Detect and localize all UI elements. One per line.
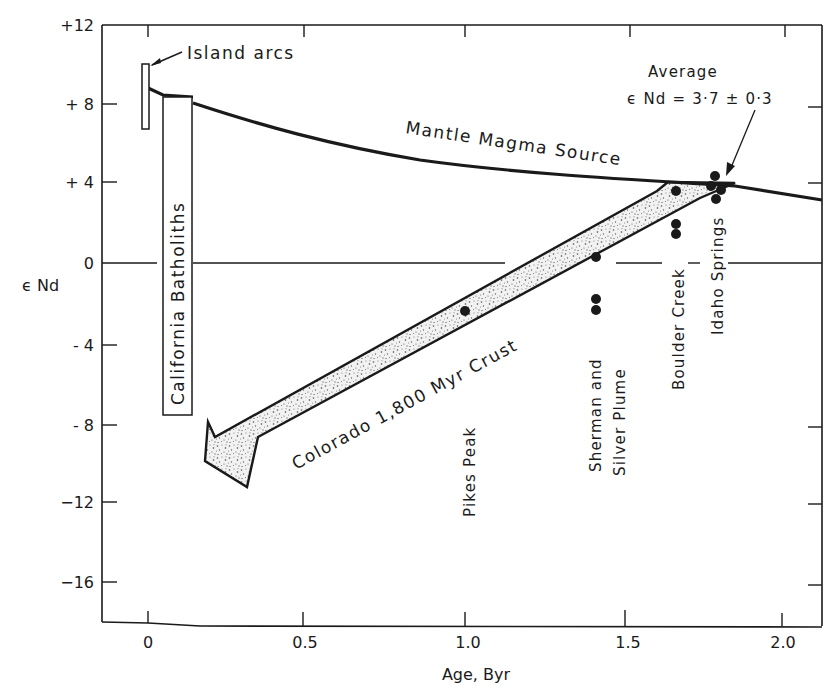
y-tick-label: −12 [60,493,94,512]
x-tick-label: 0 [143,633,153,652]
point-idaho-springs [710,171,720,181]
point-sherman-silver-plume [591,252,601,262]
point-idaho-springs [716,185,726,195]
point-boulder-creek [671,229,681,239]
y-tick-label: - 4 [73,336,94,355]
idaho-springs-label: Idaho Springs [709,217,727,335]
y-axis-title: ϵ Nd [22,276,59,295]
point-idaho-springs [711,194,721,204]
boulder-creek-label: Boulder Creek [670,268,688,390]
y-tick-label: −16 [60,573,94,592]
arrow-head-icon [150,58,161,66]
point-boulder-creek [671,219,681,229]
y-tick-label: - 8 [73,416,94,435]
point-idaho-springs [706,181,716,191]
average-pointer [730,110,755,170]
island-arcs-bar [142,64,149,129]
y-tick-label: + 8 [65,95,94,114]
silver-plume-label: Silver Plume [611,368,629,476]
y-axis-labels: +12 + 8 + 4 0 - 4 - 8 −12 −16 [60,16,94,592]
y-tick-label: +12 [60,16,94,35]
y-axis-ticks-left [102,104,117,582]
sherman-label: Sherman and [587,358,605,472]
x-axis-ticks-bottom [148,610,782,626]
x-tick-label: 1.0 [455,633,480,652]
y-axis-ticks-right [808,107,822,585]
x-axis-title: Age, Byr [442,665,511,684]
point-sherman-silver-plume [591,305,601,315]
point-pikes-peak [460,306,470,316]
y-tick-label: 0 [84,254,94,273]
x-tick-label: 2.0 [770,633,795,652]
average-label: Average [648,63,718,81]
y-tick-label: + 4 [65,173,94,192]
chart: +12 + 8 + 4 0 - 4 - 8 −12 −16 ϵ Nd 0 0.5… [0,0,837,697]
island-arcs-label: Island arcs [187,43,295,63]
arrow-head-icon [726,162,735,176]
pikes-peak-label: Pikes Peak [461,427,479,517]
x-tick-label: 1.5 [615,633,640,652]
x-axis-labels: 0 0.5 1.0 1.5 2.0 [143,633,796,652]
x-tick-label: 0.5 [292,633,317,652]
point-sherman-silver-plume [591,294,601,304]
x-axis-ticks-top [148,25,785,37]
average-value-label: ϵ Nd = 3·7 ± 0·3 [627,90,773,108]
california-batholiths-label: California Batholiths [168,202,188,405]
point-boulder-creek [671,186,681,196]
